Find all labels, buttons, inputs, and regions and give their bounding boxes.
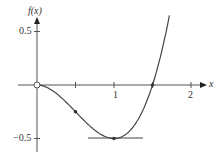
x-axis-label: x	[209, 79, 213, 89]
y-tick-label-neg: −0.5	[13, 133, 31, 143]
function-curve	[37, 15, 169, 138]
x-axis-arrow-icon	[200, 82, 207, 88]
function-plot: f(x) x 0.5 −0.5 1 2	[0, 0, 221, 155]
y-tick-label-pos: 0.5	[19, 26, 32, 36]
y-axis-label: f(x)	[28, 6, 42, 16]
x-tick-label-2: 2	[188, 90, 193, 100]
y-axis-arrow-icon	[34, 17, 40, 24]
plot-canvas	[0, 0, 221, 155]
x-tick-label-1: 1	[113, 90, 118, 100]
